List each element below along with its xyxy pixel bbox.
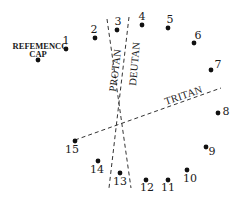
cap-number-label: 10	[183, 172, 197, 185]
cap-number-label: 9	[209, 145, 216, 158]
cap-7: 7	[209, 58, 222, 72]
tritan-axis-line	[75, 88, 221, 140]
cap-4: 4	[139, 10, 146, 27]
reference-cap-label-line2: CAP	[29, 49, 46, 59]
cap-dot	[140, 23, 145, 28]
cap-dot	[64, 47, 69, 52]
cap-number-label: 8	[223, 105, 230, 118]
cap-number-label: 6	[195, 29, 202, 42]
cap-number-label: 12	[140, 181, 154, 194]
cap-arrangement-diagram: PROTAN DEUTAN TRITAN REFEMENCC CAP 12345…	[0, 0, 233, 200]
deutan-axis-label: DEUTAN	[127, 41, 142, 86]
cap-dot	[216, 111, 221, 116]
cap-6: 6	[192, 29, 202, 45]
cap-dot	[166, 26, 171, 31]
cap-14: 14	[90, 159, 104, 176]
cap-number-label: 1	[63, 34, 70, 47]
cap-10: 10	[183, 168, 197, 185]
protan-axis-label: PROTAN	[107, 48, 123, 92]
cap-number-label: 3	[115, 15, 122, 28]
reference-cap-dot	[36, 58, 41, 63]
cap-dot	[115, 28, 120, 33]
cap-13: 13	[113, 171, 127, 188]
tritan-axis-label: TRITAN	[163, 84, 204, 107]
cap-number-label: 7	[215, 58, 222, 71]
cap-dot	[93, 36, 98, 41]
cap-number-label: 14	[90, 163, 104, 176]
cap-number-label: 2	[91, 23, 98, 36]
cap-number-label: 11	[161, 181, 175, 194]
caps-group: 123456789101112131415	[63, 10, 230, 194]
cap-11: 11	[161, 178, 175, 194]
cap-15: 15	[65, 139, 79, 156]
cap-3: 3	[115, 15, 122, 32]
cap-dot	[209, 68, 214, 73]
cap-number-label: 5	[167, 13, 174, 26]
cap-number-label: 13	[113, 175, 127, 188]
reference-cap: REFEMENCC CAP	[13, 41, 68, 62]
cap-9: 9	[204, 145, 216, 158]
cap-number-label: 4	[139, 10, 146, 23]
cap-2: 2	[91, 23, 98, 40]
deutan-axis-line	[109, 17, 129, 188]
cap-12: 12	[140, 178, 154, 194]
cap-number-label: 15	[65, 143, 79, 156]
cap-5: 5	[166, 13, 174, 30]
cap-8: 8	[216, 105, 230, 118]
